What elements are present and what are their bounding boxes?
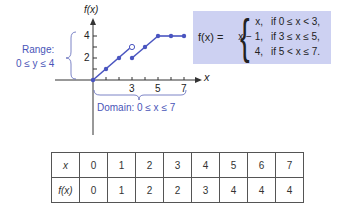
domain-brace	[94, 90, 186, 100]
table-cell: 2	[164, 178, 192, 203]
piecewise-formula-box: f(x) = { x, if 0 ≤ x < 3, x − 1, if 3 ≤ …	[193, 11, 331, 64]
case-3-cond: if 5 < x ≤ 7.	[271, 46, 320, 57]
formula-lhs: f(x) =	[198, 31, 223, 43]
range-value: 0 ≤ y ≤ 4	[16, 58, 54, 69]
case-2-cond: if 3 ≤ x ≤ 5,	[271, 31, 320, 42]
case-3-expr: 4,	[229, 46, 263, 57]
case-2-expr: x − 1,	[229, 31, 263, 42]
table-cell: 4	[192, 153, 220, 178]
table-row-x: x 0 1 2 3 4 5 6 7	[52, 153, 304, 178]
x-axis-arrow-icon	[195, 77, 202, 83]
table-cell: 2	[136, 153, 164, 178]
range-label: Range:	[22, 44, 54, 55]
x-tick-5: 5	[155, 83, 161, 94]
table-cell: 1	[108, 153, 136, 178]
table-cell: 7	[276, 153, 304, 178]
table-cell: 0	[80, 178, 108, 203]
x-tick-3: 3	[129, 83, 135, 94]
y-tick-2: 2	[84, 52, 90, 63]
row-header-x: x	[52, 153, 80, 178]
table-cell: 4	[248, 178, 276, 203]
y-tick-4: 4	[84, 30, 90, 41]
table-row-fx: f(x) 0 1 2 2 3 4 4 4	[52, 178, 304, 203]
range-brace	[66, 32, 76, 79]
table-cell: 3	[192, 178, 220, 203]
table-cell: 4	[276, 178, 304, 203]
table-cell: 1	[108, 178, 136, 203]
table-cell: 2	[136, 178, 164, 203]
row-header-fx: f(x)	[52, 178, 80, 203]
x-tick-7: 7	[181, 83, 187, 94]
table-cell: 3	[164, 153, 192, 178]
y-axis-label: f(x)	[84, 4, 98, 15]
open-endpoint	[129, 44, 134, 49]
y-axis-arrow-icon	[90, 18, 96, 25]
x-axis-label: x	[204, 71, 210, 83]
case-1-expr: x,	[229, 16, 263, 27]
table-cell: 4	[220, 178, 248, 203]
values-table: x 0 1 2 3 4 5 6 7 f(x) 0 1 2 2 3 4 4 4	[51, 152, 304, 203]
table-cell: 0	[80, 153, 108, 178]
domain-label: Domain: 0 ≤ x ≤ 7	[97, 102, 175, 113]
table-cell: 5	[220, 153, 248, 178]
table-cell: 6	[248, 153, 276, 178]
case-1-cond: if 0 ≤ x < 3,	[271, 16, 320, 27]
